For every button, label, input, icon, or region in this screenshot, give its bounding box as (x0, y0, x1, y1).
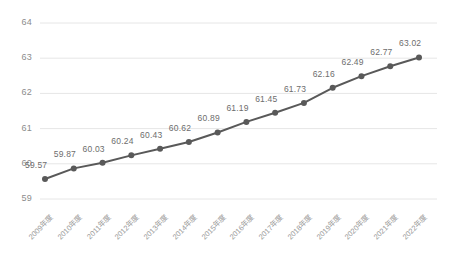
data-point-label: 61.45 (255, 94, 277, 104)
data-point-label: 62.77 (370, 47, 392, 57)
data-point (358, 73, 364, 79)
data-point (243, 119, 249, 125)
data-point-label: 63.02 (399, 38, 421, 48)
y-tick-label: 59 (10, 193, 32, 203)
data-point-label: 60.43 (140, 130, 162, 140)
data-point (301, 100, 307, 106)
data-point-label: 62.16 (313, 69, 335, 79)
data-point (128, 152, 134, 158)
y-tick-label: 63 (10, 52, 32, 62)
data-point (100, 160, 106, 166)
data-point (272, 110, 278, 116)
data-point-label: 61.19 (226, 103, 248, 113)
data-point-label: 59.87 (54, 149, 76, 159)
data-point (71, 165, 77, 171)
data-point (42, 176, 48, 182)
data-point-label: 60.03 (83, 144, 105, 154)
data-point (157, 146, 163, 152)
data-point (416, 54, 422, 60)
y-tick-label: 64 (10, 17, 32, 27)
y-tick-label: 61 (10, 123, 32, 133)
data-point-label: 59.57 (25, 160, 47, 170)
y-tick-label: 62 (10, 87, 32, 97)
line-chart: 596061626364 2009年度2010年度2011年度2012年度201… (0, 0, 453, 271)
data-point-label: 60.62 (169, 123, 191, 133)
data-point-label: 61.73 (284, 84, 306, 94)
data-point-label: 60.89 (198, 113, 220, 123)
data-point (215, 129, 221, 135)
data-point (387, 63, 393, 69)
data-point-label: 60.24 (111, 136, 133, 146)
data-point-label: 62.49 (341, 57, 363, 67)
data-point (330, 85, 336, 91)
data-point (186, 139, 192, 145)
